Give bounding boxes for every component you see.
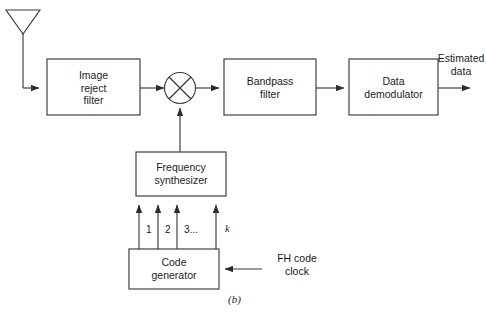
tap-label-3: 3... [184,224,198,235]
label-fh-code-clock: FH code clock [266,252,328,277]
block-image-reject-filter [47,59,140,115]
label-estimated-data: Estimated data [435,52,486,77]
tap-label-1: 1 [146,224,152,235]
block-data-demodulator [349,59,438,115]
tap-label-2: 2 [165,224,171,235]
block-code-generator [129,249,219,289]
block-frequency-synthesizer [136,152,226,196]
diagram-canvas [0,0,486,315]
mixer-icon [165,73,196,104]
block-bandpass-filter [224,59,316,115]
antenna-icon [6,10,40,88]
fh-receiver-block-diagram: Image reject filter Bandpass filter Data… [0,0,486,315]
figure-caption: (b) [228,293,241,305]
tap-label-k: k [225,223,230,234]
